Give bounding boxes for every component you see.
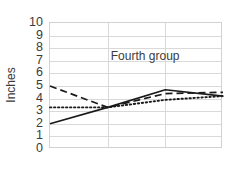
y-tick-label-0: 0 (36, 142, 43, 155)
y-axis-tick-labels: 109876543210 (20, 0, 46, 170)
chart-figure: Inches 109876543210 Fourth group (0, 0, 233, 170)
annotation-fourth-group: Fourth group (111, 49, 180, 63)
series-lines (50, 23, 223, 149)
series-line-dashed (50, 86, 223, 107)
y-axis-label-text: Inches (4, 67, 18, 102)
plot-area: Fourth group (49, 22, 222, 148)
y-axis-label: Inches (2, 22, 20, 148)
